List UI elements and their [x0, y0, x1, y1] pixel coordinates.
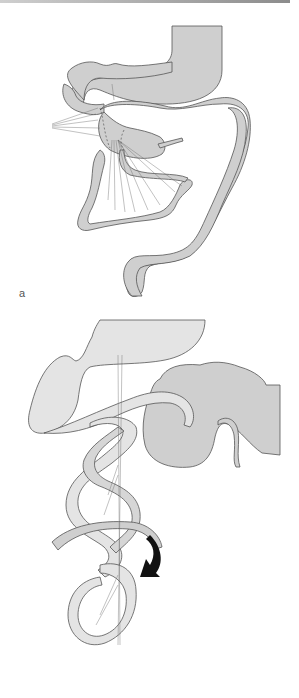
mesenteric-vessels [96, 355, 122, 645]
panel-label-a: a [19, 287, 25, 299]
colon-mass [143, 362, 280, 467]
small-bowel-loop [78, 150, 193, 231]
intestine-volvulus-illustration [0, 315, 299, 698]
cecum [99, 112, 165, 158]
panel-b: b [0, 315, 299, 698]
panel-a: a [0, 0, 299, 315]
twist-band-3 [68, 564, 136, 645]
sigmoid-tail [218, 418, 240, 467]
intestine-normal-illustration [0, 0, 299, 315]
